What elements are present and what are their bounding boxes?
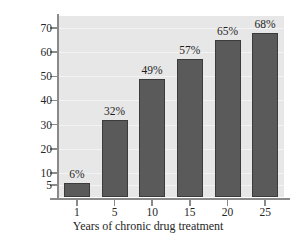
- bar-value-label: 65%: [217, 25, 238, 37]
- bar-value-label: 49%: [142, 64, 163, 76]
- bar: [215, 40, 241, 197]
- bar-value-label: 6%: [69, 168, 84, 180]
- bar-value-label: 32%: [104, 105, 125, 117]
- x-axis-title: Years of chronic drug treatment: [0, 219, 296, 234]
- y-tick-label: 50: [26, 70, 52, 82]
- bar: [64, 183, 90, 197]
- gridline: [58, 185, 284, 186]
- y-tick-label: 60: [26, 46, 52, 58]
- gridline: [58, 52, 284, 53]
- y-tick-label: 10: [26, 167, 52, 179]
- y-tick-label: 40: [26, 94, 52, 106]
- x-axis-line: [50, 198, 290, 200]
- x-tick-label: 20: [222, 206, 234, 218]
- gridline: [58, 76, 284, 77]
- plot-area: [58, 16, 284, 197]
- chart-figure: of tardive dyskinesia (%) Cumulative inc…: [0, 0, 296, 238]
- y-tick-label: 70: [26, 22, 52, 34]
- gridline: [58, 28, 284, 29]
- bar: [139, 79, 165, 197]
- bar-value-label: 57%: [179, 44, 200, 56]
- x-tick-label: 10: [146, 206, 158, 218]
- gridline: [58, 125, 284, 126]
- y-tick-label: 5: [26, 179, 52, 191]
- y-tick-label: 30: [26, 119, 52, 131]
- gridline: [58, 149, 284, 150]
- x-tick-label: 25: [259, 206, 271, 218]
- bar: [177, 59, 203, 197]
- bar: [102, 120, 128, 197]
- bar: [252, 33, 278, 197]
- x-tick-label: 1: [74, 206, 80, 218]
- x-tick-label: 15: [184, 206, 196, 218]
- bar-value-label: 68%: [255, 18, 276, 30]
- gridlines: [58, 16, 284, 197]
- gridline: [58, 100, 284, 101]
- gridline: [58, 173, 284, 174]
- x-tick-label: 5: [112, 206, 118, 218]
- y-tick-label: 20: [26, 143, 52, 155]
